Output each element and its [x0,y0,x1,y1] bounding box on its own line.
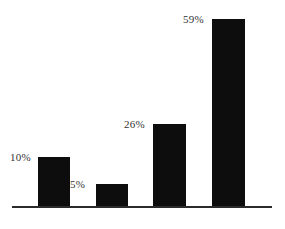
bar-chart: 10% 5% 26% 59% [0,0,285,229]
bar-value-label-4: 59% [183,13,204,25]
bar-value-label-3: 26% [124,118,145,130]
bar-2 [96,184,128,206]
plot-area: 10% 5% 26% 59% [0,0,285,229]
bar-3 [153,124,186,206]
bar-value-label-1: 10% [10,151,31,163]
x-axis-baseline [12,206,272,208]
bar-1 [38,157,70,206]
bar-value-label-2: 5% [70,178,85,190]
bar-4 [212,19,245,206]
